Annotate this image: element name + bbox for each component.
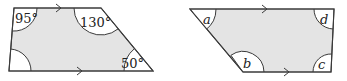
right-trapezium: a b c d [190, 5, 334, 76]
angle-label-a: a [203, 12, 211, 27]
angle-label-d: d [320, 12, 328, 27]
left-trapezium: 95° 130° 50° [9, 4, 153, 75]
angle-label-top-left: 95° [15, 11, 38, 26]
angle-label-top-right: 130° [80, 15, 111, 30]
angle-label-bottom-right: 50° [121, 56, 144, 71]
angle-label-c: c [318, 57, 326, 72]
angle-label-b: b [243, 56, 251, 71]
diagram-canvas: 95° 130° 50° a b c d [0, 0, 347, 81]
